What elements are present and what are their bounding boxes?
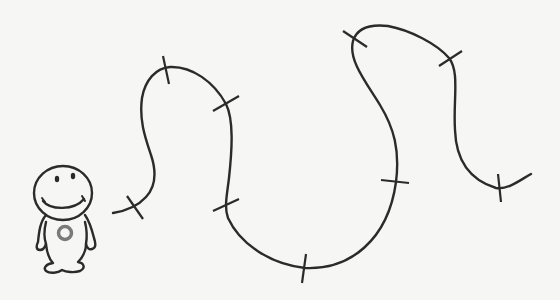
tick-mark-8: [439, 51, 462, 66]
right-eye-icon: [71, 173, 75, 180]
drawing-canvas: Line drawing of a smiling cartoon charac…: [0, 0, 560, 300]
tick-mark-2: [163, 56, 169, 84]
wavy-path: [113, 26, 531, 269]
character-head: [34, 166, 92, 220]
illustration: [0, 0, 560, 300]
tick-mark-9: [498, 174, 501, 202]
chest-ring-icon: [59, 227, 72, 240]
tick-mark-3: [213, 96, 239, 111]
tick-mark-7: [343, 31, 367, 47]
character-right-arm: [85, 222, 87, 244]
left-eye-icon: [55, 176, 59, 183]
character-left-arm: [45, 222, 47, 244]
character-figure: [34, 166, 95, 273]
tick-mark-6: [381, 180, 409, 183]
